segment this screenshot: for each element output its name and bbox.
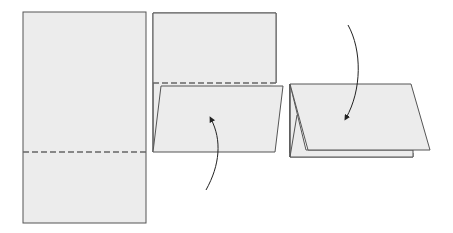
step-3-tent (290, 25, 430, 157)
diagram-canvas (0, 0, 453, 233)
step-2-sheet (153, 13, 283, 190)
folding-diagram (0, 0, 453, 233)
step-3-front-panel (290, 84, 430, 150)
step-1-sheet (23, 12, 146, 223)
